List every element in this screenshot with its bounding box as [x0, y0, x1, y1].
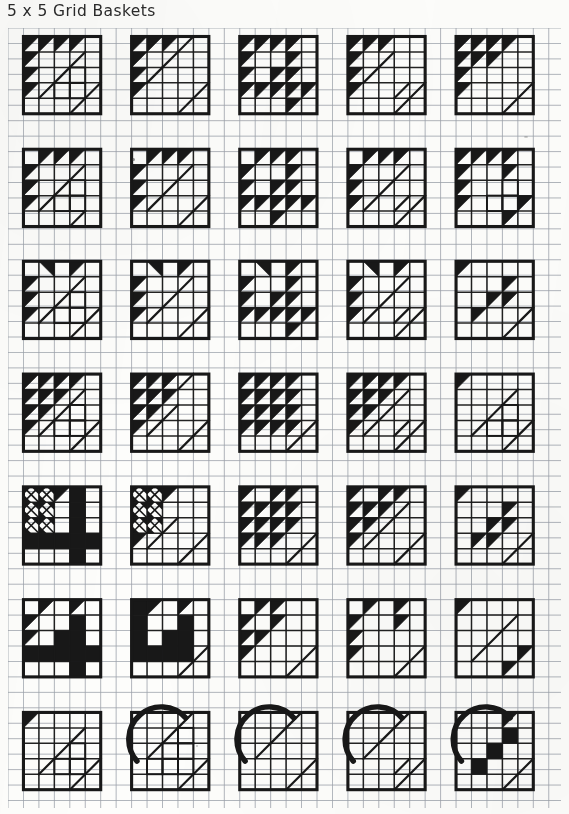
filled-square — [163, 646, 178, 661]
half-square-triangle — [132, 52, 147, 67]
basket-r2c2[interactable] — [132, 149, 209, 226]
outlined-diagonal — [394, 774, 409, 789]
basket-r6c5[interactable] — [456, 600, 533, 677]
outlined-diagonal — [70, 98, 85, 113]
basket-handle-arc — [237, 707, 294, 761]
filled-square — [54, 646, 69, 661]
basket-r5c5[interactable] — [456, 487, 533, 564]
half-square-triangle — [394, 600, 409, 615]
basket-r1c3[interactable] — [240, 37, 317, 114]
block-outline — [348, 600, 425, 677]
ink-speck-b — [196, 745, 198, 747]
half-square-triangle — [487, 37, 502, 52]
basket-r3c3[interactable] — [240, 261, 317, 338]
outlined-diagonal — [286, 549, 301, 564]
filled-square — [23, 646, 38, 661]
half-square-triangle — [518, 196, 533, 211]
basket-r6c2[interactable] — [132, 600, 209, 677]
basket-r7c5[interactable] — [453, 707, 533, 790]
half-square-triangle — [132, 277, 147, 292]
filled-square — [23, 533, 38, 548]
graph-paper-area — [8, 28, 561, 808]
basket-r6c3[interactable] — [240, 600, 317, 677]
basket-r5c3[interactable] — [240, 487, 317, 564]
basket-r7c2[interactable] — [129, 707, 209, 790]
basket-r4c2[interactable] — [132, 374, 209, 451]
half-square-triangle — [472, 533, 487, 548]
basket-r1c4[interactable] — [348, 37, 425, 114]
half-square-triangle — [363, 37, 378, 52]
basket-r6c1[interactable] — [23, 600, 100, 677]
basket-r4c3[interactable] — [240, 374, 317, 451]
filled-square — [502, 728, 517, 743]
outlined-diagonal — [363, 308, 378, 323]
half-square-triangle — [286, 37, 301, 52]
outlined-diagonal — [410, 420, 425, 435]
half-square-triangle — [487, 533, 502, 548]
outlined-diagonal — [70, 390, 85, 405]
basket-r1c1[interactable] — [23, 37, 100, 114]
half-square-triangle — [240, 292, 255, 307]
half-square-triangle — [348, 165, 363, 180]
basket-r2c1[interactable] — [23, 149, 100, 226]
half-square-triangle — [271, 390, 286, 405]
basket-r2c4[interactable] — [348, 149, 425, 226]
outlined-diagonal — [147, 308, 162, 323]
basket-r1c5[interactable] — [456, 37, 533, 114]
half-square-triangle — [23, 420, 38, 435]
basket-r5c4[interactable] — [348, 487, 425, 564]
half-square-triangle — [271, 374, 286, 389]
half-square-triangle — [348, 518, 363, 533]
basket-r3c4[interactable] — [348, 261, 425, 338]
half-square-triangle — [518, 646, 533, 661]
basket-r5c2[interactable] — [132, 487, 209, 564]
block-outline — [456, 149, 533, 226]
basket-r4c1[interactable] — [23, 374, 100, 451]
outlined-diagonal — [363, 420, 378, 435]
basket-r3c5[interactable] — [456, 261, 533, 338]
outlined-diagonal — [163, 518, 178, 533]
half-square-triangle — [286, 52, 301, 67]
half-square-triangle — [487, 52, 502, 67]
basket-r7c4[interactable] — [345, 707, 425, 790]
outlined-diagonal — [518, 533, 533, 548]
basket-r6c4[interactable] — [348, 600, 425, 677]
outlined-diagonal — [363, 743, 378, 758]
half-square-triangle — [132, 405, 147, 420]
filled-square — [178, 646, 193, 661]
basket-r3c1[interactable] — [23, 261, 100, 338]
basket-r2c5[interactable] — [456, 149, 533, 226]
basket-r5c1[interactable] — [23, 487, 100, 564]
basket-r1c2[interactable] — [132, 37, 209, 114]
outlined-diagonal — [379, 52, 394, 67]
inner-grid-square — [502, 420, 517, 435]
basket-r4c5[interactable] — [456, 374, 533, 451]
outlined-diagonal — [502, 774, 517, 789]
outlined-diagonal — [394, 83, 409, 98]
outlined-diagonal — [147, 67, 162, 82]
outlined-diagonal — [70, 774, 85, 789]
half-square-triangle — [348, 180, 363, 195]
basket-r3c2[interactable] — [132, 261, 209, 338]
half-square-triangle — [271, 37, 286, 52]
basket-r7c3[interactable] — [237, 707, 317, 790]
half-square-triangle — [456, 67, 471, 82]
basket-r2c3[interactable] — [240, 149, 317, 226]
half-square-triangle — [23, 83, 38, 98]
basket-handle-arc — [345, 707, 402, 761]
half-square-triangle — [286, 196, 301, 211]
half-square-triangle — [456, 180, 471, 195]
outlined-diagonal — [255, 743, 270, 758]
half-square-triangle — [39, 37, 54, 52]
basket-r4c4[interactable] — [348, 374, 425, 451]
half-square-triangle — [286, 323, 301, 338]
filled-square — [487, 743, 502, 758]
half-square-triangle — [132, 83, 147, 98]
basket-r7c1[interactable] — [23, 712, 100, 789]
inner-grid-square — [70, 420, 85, 435]
outlined-diagonal — [518, 420, 533, 435]
half-square-triangle — [132, 374, 147, 389]
filled-square — [178, 615, 193, 630]
block-outline — [456, 37, 533, 114]
half-square-triangle — [302, 196, 317, 211]
